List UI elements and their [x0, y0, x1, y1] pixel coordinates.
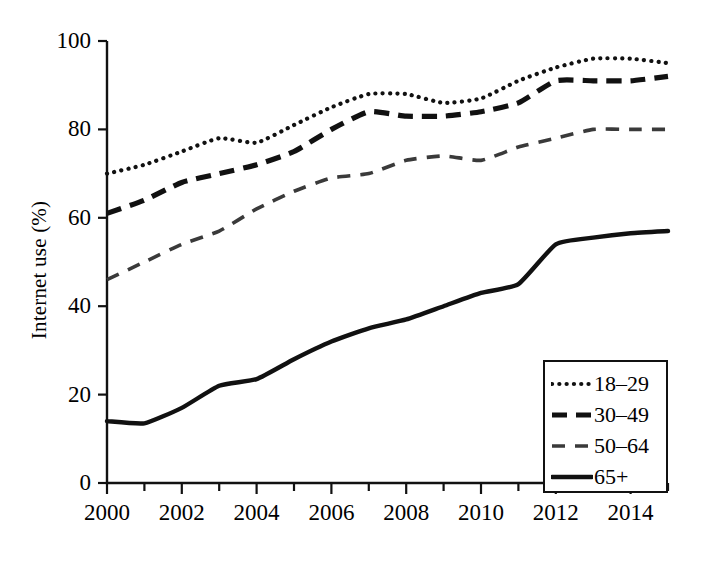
- legend-item-label: 18–29: [593, 373, 649, 395]
- y-tick-label: 80: [39, 117, 91, 140]
- chart-legend: 18–2930–4950–6465+: [543, 360, 668, 493]
- legend-line-sample-icon: [551, 377, 593, 391]
- legend-line-sample-icon: [551, 470, 593, 484]
- y-tick-label: 0: [39, 471, 91, 494]
- x-tick-label: 2006: [295, 501, 367, 524]
- x-tick-label: 2000: [71, 501, 143, 524]
- x-tick-label: 2004: [221, 501, 293, 524]
- chart-figure: Internet use (%) 020406080100 2000200220…: [0, 0, 709, 576]
- legend-item-label: 50–64: [593, 435, 649, 457]
- y-tick-label: 20: [39, 383, 91, 406]
- legend-item: 18–29: [551, 368, 665, 400]
- legend-item: 50–64: [551, 430, 665, 462]
- x-tick-label: 2008: [370, 501, 442, 524]
- x-tick-label: 2010: [445, 501, 517, 524]
- legend-item: 30–49: [551, 399, 665, 431]
- y-tick-label: 40: [39, 294, 91, 317]
- legend-item-label: 65+: [593, 466, 628, 488]
- legend-line-sample-icon: [551, 439, 593, 453]
- x-tick-label: 2002: [146, 501, 218, 524]
- legend-item: 65+: [551, 461, 665, 493]
- y-tick-label: 100: [39, 29, 91, 52]
- x-tick-label: 2012: [520, 501, 592, 524]
- series-line-50-64: [107, 129, 668, 280]
- legend-line-sample-icon: [551, 408, 593, 422]
- series-line-30-49: [107, 76, 668, 213]
- legend-item-label: 30–49: [593, 404, 649, 426]
- y-tick-label: 60: [39, 206, 91, 229]
- x-tick-label: 2014: [595, 501, 667, 524]
